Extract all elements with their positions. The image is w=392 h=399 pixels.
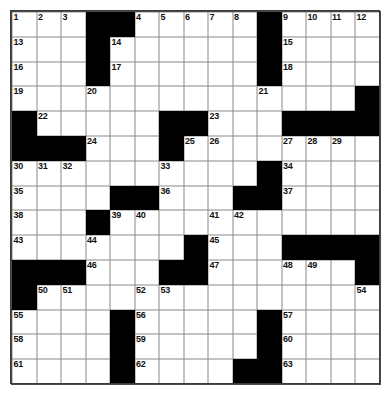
letter-cell[interactable]	[37, 62, 62, 87]
letter-cell[interactable]	[282, 285, 307, 310]
letter-cell[interactable]	[257, 210, 282, 235]
letter-cell[interactable]	[37, 86, 62, 111]
letter-cell[interactable]	[233, 136, 258, 161]
letter-cell[interactable]	[331, 285, 356, 310]
letter-cell[interactable]: 57	[282, 310, 307, 335]
letter-cell[interactable]: 1	[12, 12, 37, 37]
letter-cell[interactable]: 13	[12, 37, 37, 62]
letter-cell[interactable]	[86, 161, 111, 186]
letter-cell[interactable]	[184, 359, 209, 384]
letter-cell[interactable]	[233, 37, 258, 62]
letter-cell[interactable]	[86, 186, 111, 211]
letter-cell[interactable]	[355, 161, 380, 186]
letter-cell[interactable]	[331, 210, 356, 235]
letter-cell[interactable]	[110, 136, 135, 161]
letter-cell[interactable]: 49	[306, 260, 331, 285]
letter-cell[interactable]	[110, 260, 135, 285]
letter-cell[interactable]: 55	[12, 310, 37, 335]
letter-cell[interactable]	[355, 334, 380, 359]
letter-cell[interactable]	[159, 235, 184, 260]
letter-cell[interactable]	[355, 136, 380, 161]
letter-cell[interactable]	[331, 161, 356, 186]
letter-cell[interactable]	[233, 260, 258, 285]
letter-cell[interactable]	[184, 334, 209, 359]
letter-cell[interactable]	[159, 334, 184, 359]
letter-cell[interactable]	[306, 285, 331, 310]
letter-cell[interactable]: 32	[61, 161, 86, 186]
letter-cell[interactable]	[306, 359, 331, 384]
letter-cell[interactable]	[208, 62, 233, 87]
letter-cell[interactable]	[184, 285, 209, 310]
letter-cell[interactable]: 30	[12, 161, 37, 186]
letter-cell[interactable]	[159, 359, 184, 384]
letter-cell[interactable]	[331, 86, 356, 111]
letter-cell[interactable]	[233, 161, 258, 186]
letter-cell[interactable]	[184, 86, 209, 111]
letter-cell[interactable]	[331, 37, 356, 62]
letter-cell[interactable]	[159, 310, 184, 335]
letter-cell[interactable]: 4	[135, 12, 160, 37]
letter-cell[interactable]	[233, 62, 258, 87]
letter-cell[interactable]	[135, 86, 160, 111]
letter-cell[interactable]	[355, 37, 380, 62]
letter-cell[interactable]	[331, 260, 356, 285]
letter-cell[interactable]	[208, 37, 233, 62]
letter-cell[interactable]: 58	[12, 334, 37, 359]
letter-cell[interactable]: 46	[86, 260, 111, 285]
letter-cell[interactable]: 11	[331, 12, 356, 37]
letter-cell[interactable]: 9	[282, 12, 307, 37]
letter-cell[interactable]	[306, 161, 331, 186]
letter-cell[interactable]	[110, 235, 135, 260]
letter-cell[interactable]: 27	[282, 136, 307, 161]
letter-cell[interactable]	[37, 310, 62, 335]
letter-cell[interactable]	[306, 210, 331, 235]
letter-cell[interactable]: 45	[208, 235, 233, 260]
crossword-grid[interactable]: 1234567891011121314151617181920212223242…	[11, 11, 381, 385]
letter-cell[interactable]	[355, 210, 380, 235]
letter-cell[interactable]	[355, 186, 380, 211]
letter-cell[interactable]: 25	[184, 136, 209, 161]
letter-cell[interactable]: 56	[135, 310, 160, 335]
letter-cell[interactable]: 23	[208, 111, 233, 136]
letter-cell[interactable]: 31	[37, 161, 62, 186]
letter-cell[interactable]	[159, 37, 184, 62]
letter-cell[interactable]: 12	[355, 12, 380, 37]
letter-cell[interactable]: 54	[355, 285, 380, 310]
letter-cell[interactable]	[331, 359, 356, 384]
letter-cell[interactable]	[331, 186, 356, 211]
letter-cell[interactable]: 6	[184, 12, 209, 37]
letter-cell[interactable]: 2	[37, 12, 62, 37]
letter-cell[interactable]: 38	[12, 210, 37, 235]
letter-cell[interactable]	[61, 210, 86, 235]
letter-cell[interactable]	[110, 285, 135, 310]
letter-cell[interactable]	[208, 310, 233, 335]
letter-cell[interactable]	[306, 334, 331, 359]
letter-cell[interactable]: 53	[159, 285, 184, 310]
letter-cell[interactable]	[184, 37, 209, 62]
letter-cell[interactable]	[86, 285, 111, 310]
letter-cell[interactable]: 3	[61, 12, 86, 37]
letter-cell[interactable]: 18	[282, 62, 307, 87]
letter-cell[interactable]: 7	[208, 12, 233, 37]
letter-cell[interactable]: 10	[306, 12, 331, 37]
letter-cell[interactable]	[37, 210, 62, 235]
letter-cell[interactable]	[135, 235, 160, 260]
letter-cell[interactable]: 59	[135, 334, 160, 359]
letter-cell[interactable]: 14	[110, 37, 135, 62]
letter-cell[interactable]	[306, 86, 331, 111]
letter-cell[interactable]	[135, 111, 160, 136]
letter-cell[interactable]: 34	[282, 161, 307, 186]
letter-cell[interactable]	[61, 310, 86, 335]
letter-cell[interactable]	[37, 37, 62, 62]
letter-cell[interactable]	[37, 235, 62, 260]
letter-cell[interactable]: 62	[135, 359, 160, 384]
letter-cell[interactable]	[184, 310, 209, 335]
letter-cell[interactable]	[61, 186, 86, 211]
letter-cell[interactable]	[331, 310, 356, 335]
letter-cell[interactable]: 5	[159, 12, 184, 37]
letter-cell[interactable]	[184, 186, 209, 211]
letter-cell[interactable]	[208, 359, 233, 384]
letter-cell[interactable]: 41	[208, 210, 233, 235]
letter-cell[interactable]: 63	[282, 359, 307, 384]
letter-cell[interactable]	[208, 285, 233, 310]
